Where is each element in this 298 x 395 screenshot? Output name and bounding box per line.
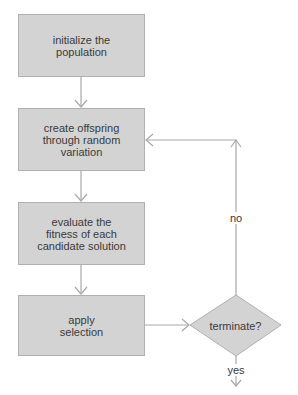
node-apply-selection: apply selection: [18, 295, 145, 356]
edge-terminate-no-loop: [146, 140, 236, 295]
node-label: fitness of each: [37, 228, 126, 240]
node-label: initialize the: [53, 34, 110, 46]
decision-label: terminate?: [210, 320, 262, 332]
edge-label-yes: yes: [225, 364, 247, 376]
node-terminate-decision: terminate?: [190, 295, 281, 356]
node-label: apply: [60, 314, 103, 326]
node-evaluate-fitness: evaluate the fitness of each candidate s…: [18, 202, 145, 265]
flowchart-canvas: initialize the population create offspri…: [0, 0, 298, 395]
node-label: through random: [43, 134, 121, 146]
node-label: variation: [43, 146, 121, 158]
node-label: candidate solution: [37, 240, 126, 252]
node-initialize-population: initialize the population: [18, 14, 145, 77]
node-label: create offspring: [43, 122, 121, 134]
node-label: selection: [60, 326, 103, 338]
node-label: population: [53, 46, 110, 58]
node-label: evaluate the: [37, 216, 126, 228]
edge-label-no: no: [227, 212, 245, 224]
node-create-offspring: create offspring through random variatio…: [18, 108, 145, 171]
